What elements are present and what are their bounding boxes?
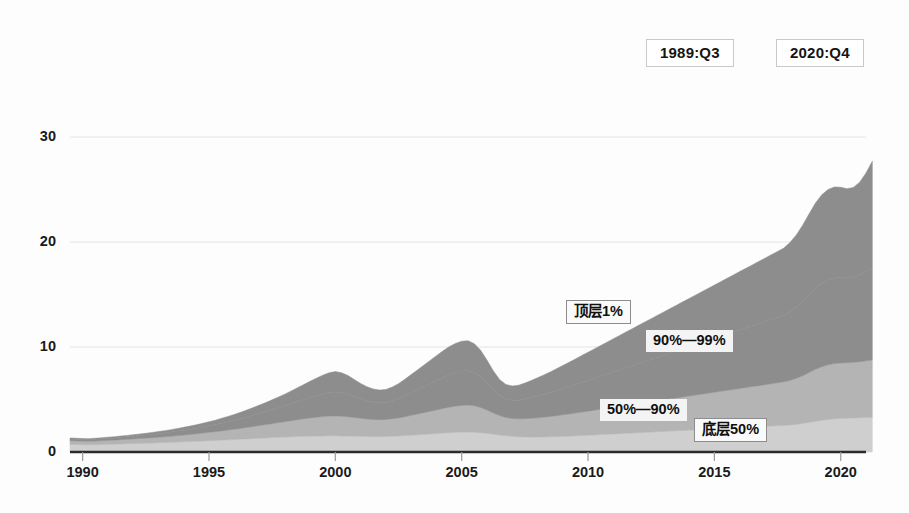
y-tick-label: 10 [22, 338, 56, 354]
x-tick-label: 2005 [432, 464, 492, 480]
x-tick-label: 2020 [811, 464, 871, 480]
chart-figure: 1989:Q3 2020:Q4 0102030 1990199520002005… [0, 0, 909, 513]
y-tick-label: 0 [22, 443, 56, 459]
y-tick-label: 20 [22, 233, 56, 249]
x-tick-label: 2010 [558, 464, 618, 480]
x-tick-label: 1995 [179, 464, 239, 480]
x-tick-label: 1990 [53, 464, 113, 480]
stacked-area-plot [0, 0, 909, 513]
series-label-top-1-percent: 顶层1% [566, 300, 631, 324]
area-series-group [70, 161, 872, 452]
x-tick-label: 2000 [305, 464, 365, 480]
series-label-90-99-percent: 90%—99% [646, 330, 733, 352]
x-tick-label: 2015 [684, 464, 744, 480]
y-tick-label: 30 [22, 128, 56, 144]
series-label-bottom-50-percent: 底层50% [694, 418, 767, 442]
x-tick-marks [83, 452, 841, 461]
series-label-50-90-percent: 50%—90% [600, 399, 687, 421]
